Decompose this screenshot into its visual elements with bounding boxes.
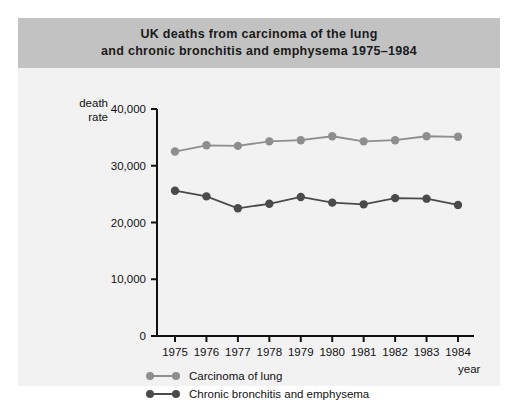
legend-label: Chronic bronchitis and emphysema: [189, 388, 369, 400]
legend-marker-icon: [146, 370, 180, 382]
series-data-point: [328, 132, 336, 140]
x-axis-tick-label: 1975: [162, 346, 188, 358]
y-axis-tick-label: 40,000: [111, 103, 146, 115]
x-axis-tick-label: 1977: [225, 346, 251, 358]
x-axis-tick-label: 1981: [351, 346, 377, 358]
chart-title-banner: UK deaths from carcinoma of the lung and…: [18, 18, 500, 68]
series-data-point: [234, 204, 242, 212]
x-axis-tick-label: 1980: [319, 346, 345, 358]
chart-title-line-2: and chronic bronchitis and emphysema 197…: [101, 43, 417, 60]
chart-legend: Carcinoma of lungChronic bronchitis and …: [146, 368, 369, 404]
legend-item[interactable]: Carcinoma of lung: [146, 368, 369, 384]
x-axis-tick-label: 1979: [288, 346, 314, 358]
series-data-point: [265, 137, 273, 145]
series-data-point: [359, 137, 367, 145]
series-data-point: [202, 192, 210, 200]
series-data-point: [297, 136, 305, 144]
series-data-point: [422, 132, 430, 140]
y-axis-tick-label: 10,000: [111, 273, 146, 285]
series-data-point: [359, 200, 367, 208]
series-data-point: [171, 147, 179, 155]
series-data-point: [391, 194, 399, 202]
x-axis-tick-label: 1984: [445, 346, 471, 358]
x-axis-label: year: [458, 363, 480, 375]
y-axis-ticks: 010,00020,00030,00040,000: [111, 103, 157, 342]
chart-title-line-1: UK deaths from carcinoma of the lung: [140, 26, 377, 43]
plot-area: death rate 010,00020,00030,00040,000 197…: [18, 68, 500, 386]
series-line: [175, 136, 458, 151]
series-data-point: [297, 193, 305, 201]
data-series-layer: [171, 132, 462, 212]
x-axis-ticks: 1975197619771978197919801981198219831984: [162, 336, 471, 358]
x-axis-tick-label: 1978: [257, 346, 283, 358]
y-axis-tick-label: 30,000: [111, 160, 146, 172]
series-data-point: [391, 136, 399, 144]
chart-canvas: 010,00020,00030,00040,000 19751976197719…: [18, 68, 500, 386]
x-axis-tick-label: 1983: [414, 346, 440, 358]
series-data-point: [234, 142, 242, 150]
legend-label: Carcinoma of lung: [189, 370, 282, 382]
series-data-point: [265, 200, 273, 208]
series-data-point: [202, 141, 210, 149]
legend-marker-icon: [146, 388, 180, 400]
x-axis-tick-label: 1982: [382, 346, 408, 358]
chart-figure: UK deaths from carcinoma of the lung and…: [18, 18, 500, 386]
y-axis-tick-label: 20,000: [111, 217, 146, 229]
y-axis-tick-label: 0: [140, 330, 146, 342]
series-line: [175, 191, 458, 209]
series-data-point: [171, 187, 179, 195]
legend-item[interactable]: Chronic bronchitis and emphysema: [146, 386, 369, 402]
x-axis-tick-label: 1976: [194, 346, 220, 358]
series-data-point: [328, 198, 336, 206]
series-data-point: [422, 194, 430, 202]
series-data-point: [454, 133, 462, 141]
series-data-point: [454, 201, 462, 209]
